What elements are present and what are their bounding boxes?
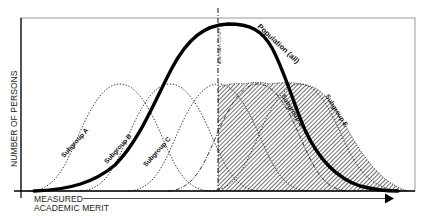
hatched-region (218, 83, 408, 192)
cutoff-label: ARBITRARY CUTOFF (218, 27, 222, 64)
x-axis-label-line2: ACADEMIC MERIT (34, 203, 109, 213)
merit-distribution-diagram: ARBITRARY CUTOFF NUMBER OF PERSONS Popul… (0, 0, 426, 216)
arrow-right-icon (385, 194, 394, 204)
y-axis-label: NUMBER OF PERSONS (9, 70, 19, 167)
subgroup-c-label: Subgroup C (142, 135, 173, 168)
subgroup-a-label: Subgroup A (60, 126, 91, 159)
subgroup-a-curve (30, 84, 210, 191)
